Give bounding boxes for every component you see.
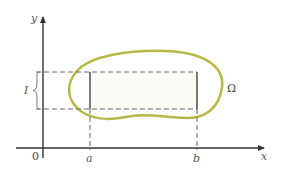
rectangle-interior: [90, 72, 197, 109]
label-a: a: [86, 152, 93, 165]
label-I: I: [23, 84, 29, 97]
origin-label: 0: [32, 150, 39, 163]
x-axis-label: x: [261, 150, 268, 163]
interval-brace-icon: [33, 72, 40, 109]
label-b: b: [193, 152, 200, 165]
y-axis-label: y: [30, 12, 38, 25]
region-omega-label: Ω: [227, 82, 236, 95]
diagram-canvas: y x 0 a b I Ω: [0, 0, 281, 170]
